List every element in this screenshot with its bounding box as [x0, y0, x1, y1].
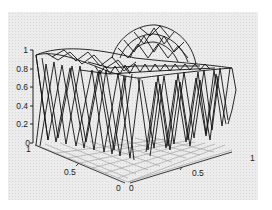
z-tick-0.4: 0.4 [16, 101, 28, 111]
z-axis: 1 0.8 0.6 0.4 0.2 0 [16, 45, 33, 148]
right-axis-tick-1: 1 [250, 153, 255, 163]
left-axis-tick-1: 1 [26, 144, 31, 154]
right-axis-tick-0: 0 [129, 183, 134, 193]
surface-plot-figure: 1 0.8 0.6 0.4 0.2 0 1 0.5 0 0 0.5 [0, 0, 272, 210]
right-axis-tick-0.5: 0.5 [192, 168, 204, 178]
surface-dome [112, 25, 196, 64]
z-tick-0.8: 0.8 [16, 64, 28, 74]
left-axis-tick-0.5: 0.5 [64, 167, 76, 177]
surface-plot-canvas: 1 0.8 0.6 0.4 0.2 0 1 0.5 0 0 0.5 [0, 0, 272, 210]
surface-plateau [36, 49, 232, 78]
z-tick-0.6: 0.6 [16, 82, 28, 92]
z-tick-1: 1 [23, 45, 28, 55]
z-tick-0.2: 0.2 [16, 119, 28, 129]
surface-wall-right [138, 68, 236, 156]
left-axis-tick-0: 0 [116, 183, 121, 193]
